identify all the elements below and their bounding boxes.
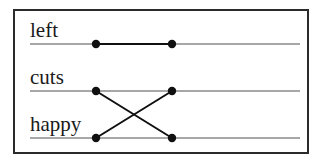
node-left-a[interactable] [92, 40, 100, 48]
node-cuts-b[interactable] [168, 87, 176, 95]
node-cuts-a[interactable] [92, 87, 100, 95]
figure-root: left cuts happy [0, 0, 328, 166]
node-happy-b[interactable] [168, 134, 176, 142]
node-happy-a[interactable] [92, 134, 100, 142]
node-left-b[interactable] [168, 40, 176, 48]
tier-label-left: left [30, 20, 58, 41]
tier-label-cuts: cuts [30, 67, 64, 88]
tier-label-happy: happy [30, 114, 81, 135]
